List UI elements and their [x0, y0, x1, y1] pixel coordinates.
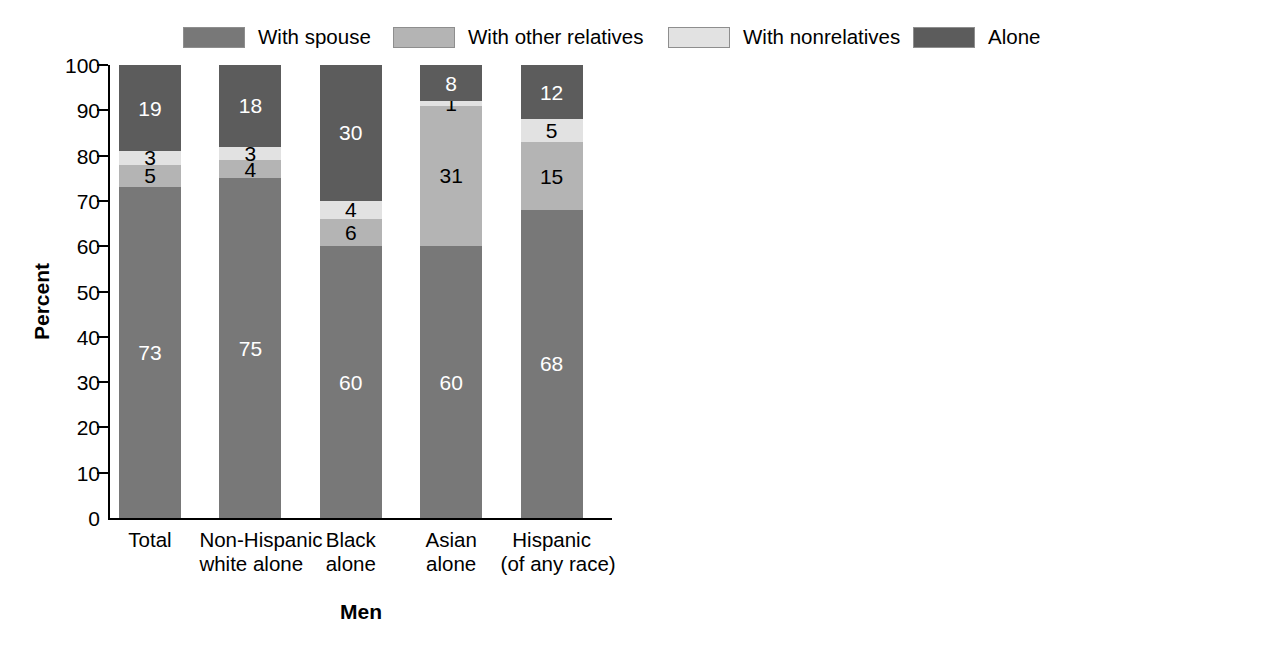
bar-segment-nonrel: 3	[119, 151, 181, 165]
y-axis-ticks-men: 1009080706050403020100	[22, 65, 100, 518]
plot-area-men: 7353197543186064306031186815512	[110, 65, 612, 518]
y-tick-mark	[97, 200, 108, 202]
bar-segment-alone: 8	[420, 65, 482, 101]
bar-value-label: 30	[339, 122, 362, 143]
bar-segment-spouse: 68	[521, 210, 583, 518]
y-tick-mark	[97, 381, 108, 383]
x-axis-label-line1: Asian	[400, 528, 502, 552]
bar-value-label: 31	[440, 165, 463, 186]
bar-segment-other: 15	[521, 142, 583, 210]
bar-segment-alone: 18	[219, 65, 281, 147]
bar-segment-nonrel: 3	[219, 147, 281, 161]
bar-segment-alone: 19	[119, 65, 181, 151]
bar-value-label: 19	[138, 98, 161, 119]
x-axis-label-line2: white alone	[199, 552, 301, 576]
bar-value-label: 75	[239, 338, 262, 359]
y-tick-label-men-0: 0	[88, 508, 100, 529]
x-axis-label-line1: Non-Hispanic	[199, 528, 301, 552]
bar-value-label: 15	[540, 166, 563, 187]
x-axis-label-line2: alone	[400, 552, 502, 576]
bar-value-label: 8	[445, 73, 457, 94]
x-axis-label-men-1: Non-Hispanicwhite alone	[199, 528, 301, 576]
bar-men-2: 606430	[320, 65, 382, 518]
chart-page: With spouseWith other relativesWith nonr…	[0, 0, 1271, 648]
y-tick-mark	[97, 64, 108, 66]
x-axis-label-men-3: Asianalone	[400, 528, 502, 576]
bar-value-label: 60	[339, 372, 362, 393]
bar-value-label: 68	[540, 353, 563, 374]
bar-segment-nonrel: 1	[420, 101, 482, 106]
x-axis-label-line2: alone	[300, 552, 402, 576]
x-axis-label-men-4: Hispanic(of any race)	[501, 528, 603, 576]
panel-women: Percent 1009080706050403020100 499240497…	[632, 0, 1271, 648]
x-axis-label-line2: (of any race)	[501, 552, 603, 576]
x-axis-label-line1: Black	[300, 528, 402, 552]
y-axis-line-men	[108, 65, 110, 518]
bar-value-label: 4	[345, 199, 357, 220]
y-tick-mark	[97, 245, 108, 247]
bar-segment-nonrel: 5	[521, 119, 583, 142]
bar-value-label: 18	[239, 95, 262, 116]
bar-value-label: 60	[440, 372, 463, 393]
x-axis-label-men-0: Total	[99, 528, 201, 552]
bar-value-label: 6	[345, 222, 357, 243]
bar-segment-other: 6	[320, 219, 382, 246]
bar-segment-other: 31	[420, 106, 482, 246]
x-axis-labels-men: TotalNon-Hispanicwhite aloneBlackaloneAs…	[110, 528, 612, 592]
group-title-men: Men	[110, 600, 612, 624]
y-tick-mark	[97, 472, 108, 474]
bar-segment-alone: 30	[320, 65, 382, 201]
y-tick-mark	[97, 291, 108, 293]
bar-segment-spouse: 75	[219, 178, 281, 518]
x-axis-label-men-2: Blackalone	[300, 528, 402, 576]
bar-segment-nonrel: 4	[320, 201, 382, 219]
x-axis-line-men	[108, 518, 612, 520]
bar-men-4: 6815512	[521, 65, 583, 518]
panel-men: Percent 1009080706050403020100 735319754…	[0, 0, 640, 648]
bar-men-3: 603118	[420, 65, 482, 518]
bar-men-0: 735319	[119, 65, 181, 518]
y-tick-mark	[97, 109, 108, 111]
bar-segment-spouse: 60	[320, 246, 382, 518]
bar-segment-alone: 12	[521, 65, 583, 119]
x-axis-label-line1: Total	[99, 528, 201, 552]
bar-value-label: 73	[138, 342, 161, 363]
bar-segment-spouse: 73	[119, 187, 181, 518]
bar-segment-spouse: 60	[420, 246, 482, 518]
y-tick-mark	[97, 155, 108, 157]
bar-value-label: 5	[546, 120, 558, 141]
y-tick-mark	[97, 426, 108, 428]
bar-men-1: 754318	[219, 65, 281, 518]
x-axis-label-line1: Hispanic	[501, 528, 603, 552]
bar-value-label: 12	[540, 82, 563, 103]
y-tick-mark	[97, 336, 108, 338]
y-tick-label-men-100: 100	[65, 55, 100, 76]
